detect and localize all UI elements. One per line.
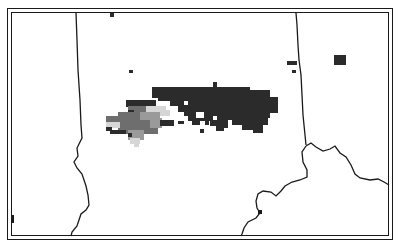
radar-map	[0, 0, 401, 249]
radar-echoes	[12, 13, 346, 223]
